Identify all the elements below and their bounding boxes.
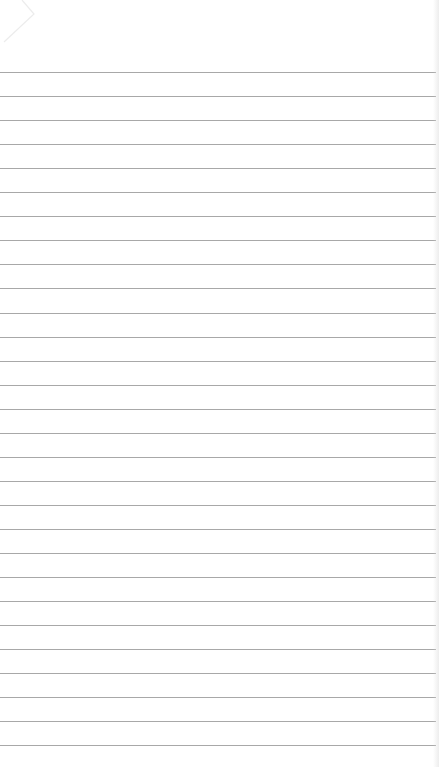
ruled-line [0, 168, 436, 169]
ruled-line [0, 409, 436, 410]
ruled-line [0, 625, 436, 626]
ruled-line [0, 264, 436, 265]
ruled-line [0, 240, 436, 241]
ruled-line [0, 433, 436, 434]
ruled-line [0, 144, 436, 145]
ruled-line [0, 721, 436, 722]
ruled-line [0, 385, 436, 386]
ruled-line [0, 96, 436, 97]
right-edge-shadow [433, 0, 439, 767]
ruled-line [0, 529, 436, 530]
ruled-line [0, 457, 436, 458]
lined-paper [0, 0, 439, 767]
ruled-line [0, 337, 436, 338]
ruled-line [0, 192, 436, 193]
ruled-line [0, 216, 436, 217]
ruled-line [0, 745, 436, 746]
ruled-line [0, 505, 436, 506]
ruled-line [0, 577, 436, 578]
ruled-line [0, 313, 436, 314]
ruled-line [0, 481, 436, 482]
page-fold-icon [0, 0, 40, 45]
ruled-line [0, 673, 436, 674]
ruled-line [0, 288, 436, 289]
ruled-line [0, 649, 436, 650]
ruled-line [0, 697, 436, 698]
ruled-line [0, 601, 436, 602]
ruled-line [0, 72, 436, 73]
ruled-line [0, 120, 436, 121]
ruled-line [0, 361, 436, 362]
ruled-line [0, 553, 436, 554]
